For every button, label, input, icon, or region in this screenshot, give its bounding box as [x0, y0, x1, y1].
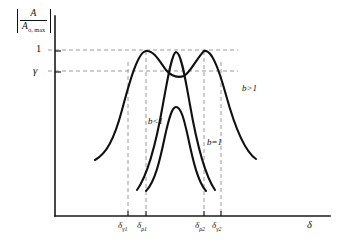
fraction-denominator: Aσ, max — [20, 21, 47, 33]
x-axis-label: δ — [307, 220, 312, 231]
x-tick-label-delta-gamma1: δγ1 — [118, 221, 128, 232]
annotation-value: 1 — [159, 116, 164, 126]
annotation-variable: b — [148, 116, 153, 126]
annotation-variable: b — [242, 83, 247, 93]
fraction-denominator-subscript: σ, max — [28, 25, 45, 32]
x-tick-sub: γ2 — [216, 226, 221, 232]
annotation-b-less-than-one: b<1 — [148, 117, 163, 126]
annotation-b-equals-one: b=1 — [207, 138, 222, 147]
x-tick-label-delta-rho2: δρ2 — [195, 221, 205, 232]
abs-bar-left-icon — [17, 9, 18, 33]
x-tick-label-delta-gamma2: δγ2 — [212, 221, 222, 232]
y-axis-label: A Aσ, max — [14, 9, 53, 33]
x-tick-sub: ρ2 — [199, 226, 205, 232]
plot-canvas — [0, 0, 338, 248]
x-tick-label-delta-rho1: δρ1 — [137, 221, 147, 232]
fraction-numerator: A — [27, 9, 39, 20]
abs-bar-right-icon — [50, 9, 51, 33]
x-tick-sub: γ1 — [122, 226, 127, 232]
y-tick-label-1: 1 — [36, 44, 41, 55]
curve-b-greater-than-one — [95, 51, 256, 160]
annotation-b-greater-than-one: b>1 — [242, 84, 257, 93]
annotation-variable: b — [207, 137, 212, 147]
annotation-value: 1 — [218, 137, 223, 147]
x-tick-sub: ρ1 — [141, 226, 147, 232]
annotation-value: 1 — [253, 83, 258, 93]
figure-root: A Aσ, max 1 γ δγ1 δρ1 δρ2 δγ2 δ b>1 b<1 … — [0, 0, 338, 248]
y-tick-label-gamma: γ — [33, 65, 37, 76]
fraction: A Aσ, max — [20, 9, 47, 33]
